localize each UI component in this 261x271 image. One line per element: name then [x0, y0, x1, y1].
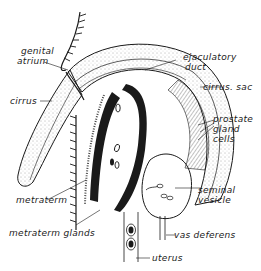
- label-cirrus: cirrus: [10, 96, 37, 106]
- label-uterus: uterus: [152, 253, 183, 263]
- label-vas-deferens: vas deferens: [174, 230, 236, 240]
- cirrus: [18, 70, 84, 186]
- label-genital-atrium-line1: genital: [21, 46, 54, 56]
- label-ejaculatory-duct-line2: duct: [185, 62, 206, 72]
- uterus: [124, 212, 138, 262]
- label-prostate-line2: gland: [213, 124, 240, 134]
- label-metraterm-glands: metraterm glands: [9, 228, 95, 238]
- label-cirrus-sac: cirrus. sac: [203, 82, 252, 92]
- label-seminal-vesicle-line1: seminal: [198, 185, 235, 195]
- label-seminal-vesicle-line2: vesicle: [198, 195, 231, 205]
- label-ejaculatory-duct-line1: ejaculatory: [183, 52, 237, 62]
- label-prostate-line1: prostate: [213, 114, 253, 124]
- seminal-vesicle: [142, 154, 192, 240]
- metraterm: [85, 84, 147, 212]
- label-prostate-line3: cells: [213, 134, 235, 144]
- label-metraterm: metraterm: [16, 195, 67, 205]
- label-genital-atrium-line2: atrium: [17, 56, 49, 66]
